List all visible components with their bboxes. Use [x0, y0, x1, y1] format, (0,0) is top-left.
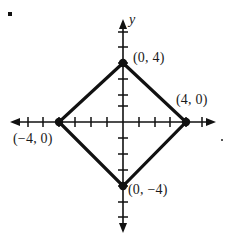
graph-canvas — [0, 0, 226, 238]
coordinate-plane-figure: y (0, 4) (4, 0) (−4, 0) (0, −4) — [0, 0, 226, 238]
vertex-label-left: (−4, 0) — [13, 131, 53, 147]
y-axis-down-arrowhead — [119, 223, 127, 233]
x-axis-right-arrowhead — [206, 118, 216, 126]
vertex-label-right: (4, 0) — [176, 92, 208, 108]
vertex-point-left — [55, 118, 63, 126]
y-axis-up-arrowhead — [119, 19, 127, 29]
bullet-mark — [8, 12, 12, 16]
x-axis-left-arrowhead — [10, 118, 20, 126]
y-axis-label: y — [129, 12, 135, 28]
vertex-point-bottom — [119, 182, 127, 190]
vertex-label-top: (0, 4) — [133, 50, 165, 66]
vertex-label-bottom: (0, −4) — [128, 182, 168, 198]
page-edge-dot — [221, 139, 223, 141]
vertex-point-right — [182, 118, 190, 126]
vertex-point-top — [119, 59, 127, 67]
